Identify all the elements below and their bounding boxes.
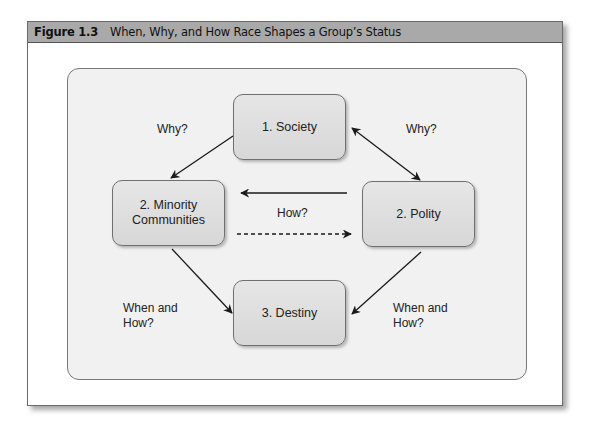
node-minority-communities: 2. Minority Communities <box>112 180 225 246</box>
node-polity: 2. Polity <box>362 181 475 247</box>
node-polity-label: 2. Polity <box>396 207 440 222</box>
node-society: 1. Society <box>233 94 346 160</box>
label-how-center: How? <box>277 206 308 221</box>
figure-number: Figure 1.3 <box>34 25 98 39</box>
label-when-how-right: When and How? <box>393 301 448 331</box>
label-why-right: Why? <box>406 122 437 137</box>
label-when-how-left: When and How? <box>123 301 178 331</box>
figure-header: Figure 1.3 When, Why, and How Race Shape… <box>28 22 562 43</box>
node-minority-label: 2. Minority Communities <box>132 198 205 228</box>
node-destiny: 3. Destiny <box>233 280 346 346</box>
figure-title: When, Why, and How Race Shapes a Group’s… <box>110 25 401 39</box>
label-why-left: Why? <box>157 122 188 137</box>
node-destiny-label: 3. Destiny <box>262 306 318 321</box>
node-society-label: 1. Society <box>262 120 317 135</box>
